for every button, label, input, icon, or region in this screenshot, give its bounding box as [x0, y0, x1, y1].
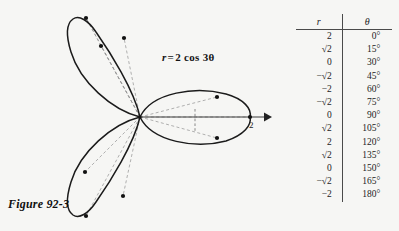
cell-theta: 30° — [342, 56, 392, 69]
table-body: 20°√215°030°−√245°−260°−√275°090°√2105°2… — [296, 30, 392, 202]
cell-r: 2 — [296, 136, 342, 149]
pole-point — [138, 115, 141, 118]
equation-label: r=2 cos 3θ — [162, 51, 214, 63]
cell-theta: 60° — [342, 83, 392, 96]
cell-theta: 120° — [342, 136, 392, 149]
axis-value-label: 2 — [249, 120, 254, 130]
cell-theta-value: 90° — [354, 109, 380, 122]
value-table: r θ 20°√215°030°−√245°−260°−√275°090°√21… — [296, 14, 392, 202]
cell-r-value: √2 — [306, 149, 332, 162]
cell-r-value: 0 — [306, 162, 332, 175]
cell-theta-value: 165° — [354, 175, 380, 188]
table-row: −√245° — [296, 70, 392, 83]
table-row: −2180° — [296, 188, 392, 201]
cell-theta-value: 105° — [354, 122, 380, 135]
cell-r-value: 0 — [306, 56, 332, 69]
cell-theta-value: 30° — [354, 56, 380, 69]
cell-r: −√2 — [296, 70, 342, 83]
cell-r-value: −√2 — [306, 175, 332, 188]
table-row: −√275° — [296, 96, 392, 109]
cell-r-value: −2 — [306, 83, 332, 96]
figure-page: r=2 cos 3θ 2 Figure 92-3 r θ 20°√215°030… — [0, 0, 399, 231]
cell-r: −√2 — [296, 96, 342, 109]
table-row: 20° — [296, 30, 392, 44]
table-row: √2105° — [296, 122, 392, 135]
table-row: √215° — [296, 43, 392, 56]
cell-theta: 150° — [342, 162, 392, 175]
cell-r: √2 — [296, 149, 342, 162]
cell-theta: 0° — [342, 30, 392, 44]
figure-caption: Figure 92-3 — [8, 197, 69, 212]
cell-r-value: √2 — [306, 122, 332, 135]
cell-theta-value: 75° — [354, 96, 380, 109]
cell-theta: 75° — [342, 96, 392, 109]
table-row: −√2165° — [296, 175, 392, 188]
cell-r-value: √2 — [306, 43, 332, 56]
table-row: 090° — [296, 109, 392, 122]
cell-theta-value: 60° — [354, 83, 380, 96]
cell-theta: 165° — [342, 175, 392, 188]
cell-r-value: 0 — [306, 109, 332, 122]
column-header-r: r — [296, 14, 342, 30]
table-row: 0150° — [296, 162, 392, 175]
cell-r: −2 — [296, 188, 342, 201]
table-row: 2120° — [296, 136, 392, 149]
cell-theta: 180° — [342, 188, 392, 201]
cell-theta-value: 180° — [354, 188, 380, 201]
cell-r-value: −√2 — [306, 96, 332, 109]
table-row: √2135° — [296, 149, 392, 162]
cell-theta: 135° — [342, 149, 392, 162]
cell-r: √2 — [296, 43, 342, 56]
cell-r-value: 2 — [306, 136, 332, 149]
cell-r-value: 2 — [306, 30, 332, 43]
cell-theta-value: 135° — [354, 149, 380, 162]
cell-theta-value: 120° — [354, 136, 380, 149]
cell-r: −√2 — [296, 175, 342, 188]
cell-r: 0 — [296, 109, 342, 122]
cell-r: 2 — [296, 30, 342, 44]
cell-r: √2 — [296, 122, 342, 135]
cell-theta-value: 45° — [354, 70, 380, 83]
cell-r: −2 — [296, 83, 342, 96]
cell-r: 0 — [296, 56, 342, 69]
cell-theta-value: 15° — [354, 43, 380, 56]
table-row: −260° — [296, 83, 392, 96]
cell-theta: 45° — [342, 70, 392, 83]
cell-theta-value: 0° — [354, 30, 380, 43]
equation-equals: = — [168, 51, 175, 63]
table-header-row: r θ — [296, 14, 392, 30]
cell-theta: 15° — [342, 43, 392, 56]
cell-r-value: −√2 — [306, 70, 332, 83]
cell-theta: 90° — [342, 109, 392, 122]
equation-rhs: 2 cos 3θ — [175, 51, 214, 63]
cell-r-value: −2 — [306, 188, 332, 201]
cell-r: 0 — [296, 162, 342, 175]
column-header-theta: θ — [342, 14, 392, 30]
cell-theta: 105° — [342, 122, 392, 135]
equation-lhs: r — [162, 51, 167, 63]
cell-theta-value: 150° — [354, 162, 380, 175]
table-row: 030° — [296, 56, 392, 69]
